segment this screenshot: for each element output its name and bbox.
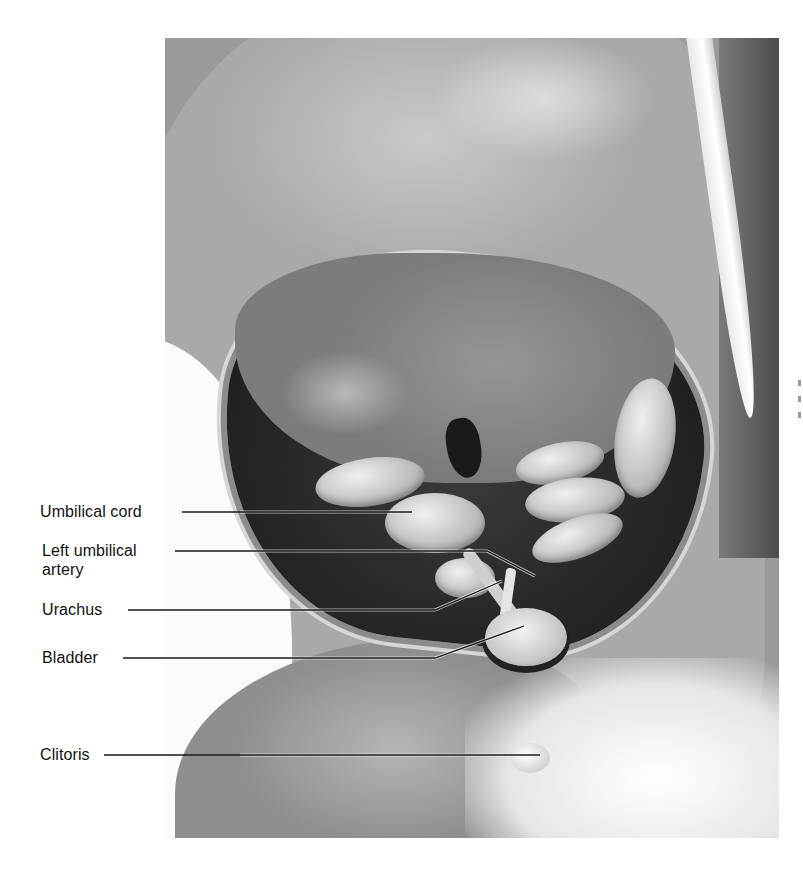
- label-line: Left umbilical: [42, 541, 137, 560]
- label-umbilical-cord: Umbilical cord: [40, 502, 142, 521]
- label-line: artery: [42, 560, 137, 579]
- anatomy-figure: Umbilical cord Left umbilical artery Ura…: [0, 0, 803, 878]
- dissection-photograph: [165, 38, 779, 838]
- label-urachus: Urachus: [42, 600, 102, 619]
- clitoris-structure: [510, 743, 550, 773]
- cropped-adjacent-text: [798, 380, 803, 440]
- label-bladder: Bladder: [42, 648, 98, 667]
- label-left-umbilical-artery: Left umbilical artery: [42, 541, 137, 579]
- bladder-structure: [485, 608, 567, 666]
- umbilical-cord-stump: [385, 493, 485, 553]
- lower-abdomen-highlight: [465, 658, 779, 838]
- label-clitoris: Clitoris: [40, 745, 90, 764]
